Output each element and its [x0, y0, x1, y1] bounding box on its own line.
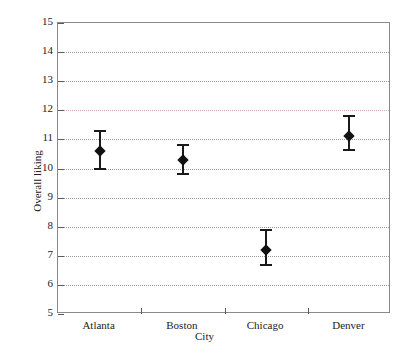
data-point-marker	[260, 244, 271, 255]
data-point-marker	[344, 131, 355, 142]
y-tick-label: 7	[13, 249, 53, 260]
y-tick-label: 11	[13, 132, 53, 143]
data-series	[58, 23, 389, 312]
y-tick-label: 10	[13, 162, 53, 173]
errorbar-cap-upper	[177, 144, 189, 146]
y-tick-label: 14	[13, 45, 53, 56]
y-tick-label: 15	[13, 16, 53, 27]
data-point-marker	[177, 154, 188, 165]
errorbar-cap-lower	[260, 264, 272, 266]
x-axis-title: City	[0, 330, 409, 342]
plot-area	[57, 22, 390, 313]
errorbar-cap-lower	[177, 173, 189, 175]
y-tick-label: 12	[13, 103, 53, 114]
errorbar-cap-upper	[260, 229, 272, 231]
y-tick-label: 8	[13, 220, 53, 231]
data-point-marker	[94, 145, 105, 156]
y-tick-label: 6	[13, 278, 53, 289]
y-tick-label: 5	[13, 307, 53, 318]
y-tick-label: 9	[13, 191, 53, 202]
errorbar-cap-lower	[343, 149, 355, 151]
errorbar-cap-upper	[94, 130, 106, 132]
y-axis-title: Overall liking	[31, 150, 43, 211]
y-tick	[58, 314, 64, 315]
chart-container: Overall liking 56789101112131415 Atlanta…	[0, 0, 409, 361]
errorbar-cap-lower	[94, 168, 106, 170]
y-tick-label: 13	[13, 74, 53, 85]
errorbar-cap-upper	[343, 115, 355, 117]
